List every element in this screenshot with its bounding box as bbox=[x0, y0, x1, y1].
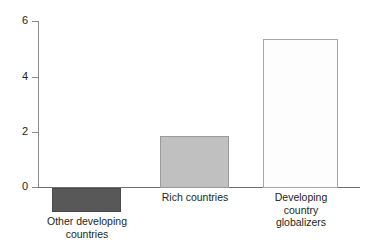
y-tick-label-6: 6 bbox=[8, 15, 28, 26]
y-tick-mark-2 bbox=[32, 132, 38, 133]
bar-other-developing-countries bbox=[52, 188, 121, 212]
y-tick-mark-0 bbox=[32, 187, 38, 188]
y-tick-mark-4 bbox=[32, 77, 38, 78]
y-axis-line bbox=[38, 21, 39, 188]
y-tick-label-4: 4 bbox=[8, 71, 28, 82]
category-label-rich-countries: Rich countries bbox=[139, 191, 251, 204]
y-tick-mark-6 bbox=[32, 21, 38, 22]
bar-chart: 6 4 2 0 Other developing countries Rich … bbox=[0, 0, 372, 252]
bar-rich-countries bbox=[160, 136, 229, 188]
y-tick-label-0: 0 bbox=[8, 181, 28, 192]
category-label-other-developing-countries: Other developing countries bbox=[22, 215, 152, 240]
category-label-developing-country-globalizers: Developing country globalizers bbox=[248, 191, 354, 229]
bar-developing-country-globalizers bbox=[263, 39, 338, 188]
y-tick-label-2: 2 bbox=[8, 126, 28, 137]
